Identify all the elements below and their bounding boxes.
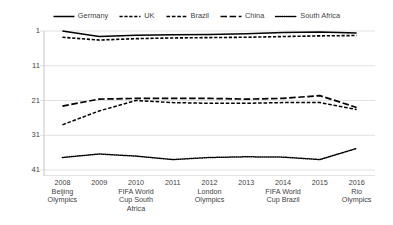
legend-entry-uk[interactable]: UK <box>119 12 154 21</box>
series-line-south-africa <box>62 148 356 159</box>
line-dotted-icon <box>275 12 297 21</box>
legend-entry-germany[interactable]: Germany <box>53 12 108 21</box>
x-tick-2011: 2011 <box>154 179 191 225</box>
x-axis-tick-labels: 2008Beijing Olympics20092010FIFA World C… <box>44 179 375 225</box>
x-tick-2015: 2015 <box>301 179 338 225</box>
legend-entry-south-africa[interactable]: South Africa <box>275 12 340 21</box>
x-tick-event: FIFA World Cup South Africa <box>118 188 155 214</box>
line-long-dash-icon <box>220 12 242 21</box>
legend-label: Germany <box>78 12 108 19</box>
line-dash-dot-icon <box>166 12 188 21</box>
x-tick-event: London Olympics <box>191 188 228 205</box>
x-tick-2012: 2012London Olympics <box>191 179 228 225</box>
line-dashed-icon <box>119 12 141 21</box>
x-tick-event: Rio Olympics <box>338 188 375 205</box>
x-tick-2013: 2013 <box>228 179 265 225</box>
legend-label: Brazil <box>191 12 209 19</box>
x-tick-year: 2011 <box>154 179 191 188</box>
legend-label: China <box>245 12 264 19</box>
line-solid-icon <box>53 12 75 21</box>
x-tick-2009: 2009 <box>81 179 118 225</box>
series-line-china <box>62 96 356 108</box>
x-tick-2014: 2014FIFA World Cup Brazil <box>265 179 302 225</box>
legend-entry-china[interactable]: China <box>220 12 264 21</box>
plot-svg <box>0 24 393 176</box>
series-line-brazil <box>62 101 356 125</box>
rank-line-chart: GermanyUKBrazilChinaSouth Africa 1112131… <box>0 0 393 225</box>
x-tick-event: Beijing Olympics <box>44 188 81 205</box>
plot-area <box>0 24 393 176</box>
x-tick-year: 2015 <box>301 179 338 188</box>
x-tick-event: FIFA World Cup Brazil <box>265 188 302 205</box>
legend-entry-brazil[interactable]: Brazil <box>166 12 209 21</box>
x-tick-2008: 2008Beijing Olympics <box>44 179 81 225</box>
chart-legend: GermanyUKBrazilChinaSouth Africa <box>0 8 393 24</box>
x-tick-year: 2009 <box>81 179 118 188</box>
x-tick-2010: 2010FIFA World Cup South Africa <box>118 179 155 225</box>
legend-label: UK <box>144 12 154 19</box>
x-tick-2016: 2016Rio Olympics <box>338 179 375 225</box>
x-tick-year: 2013 <box>228 179 265 188</box>
legend-label: South Africa <box>300 12 340 19</box>
